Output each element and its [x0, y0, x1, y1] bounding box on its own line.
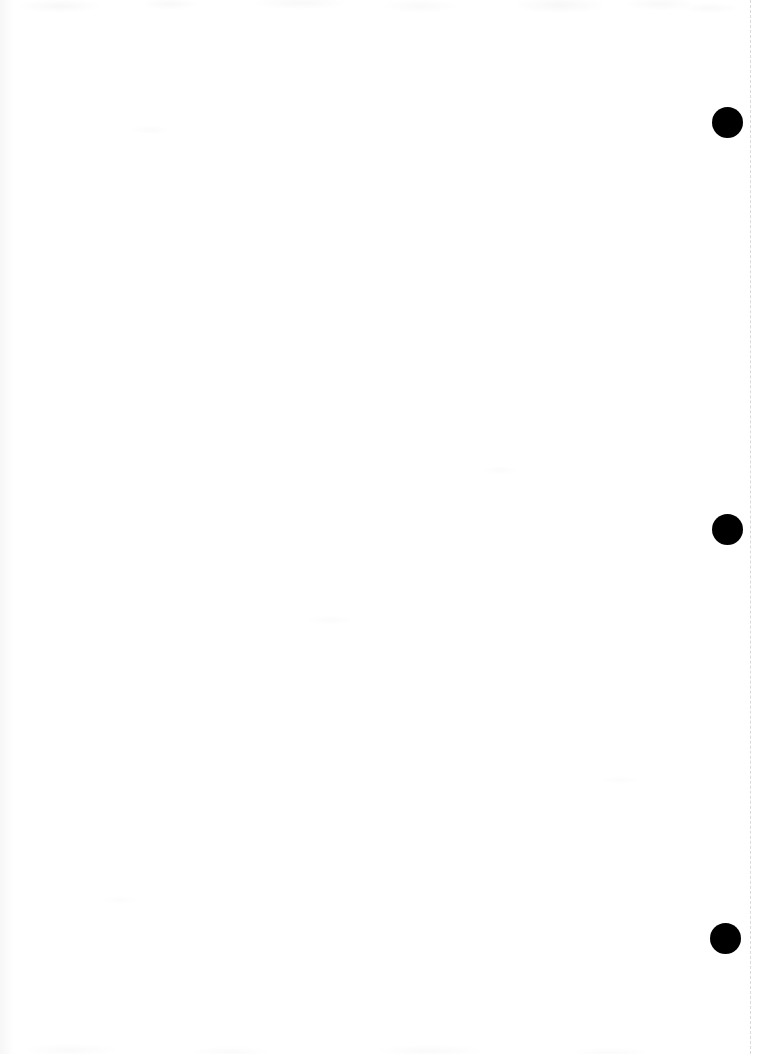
scan-noise-top-edge	[0, 0, 760, 34]
page-body-text	[40, 40, 700, 1000]
vertical-dashed-guide-line	[750, 0, 751, 1054]
registration-dot-middle	[712, 514, 743, 545]
scanned-page	[0, 0, 760, 1054]
scan-noise-bottom-edge	[0, 1024, 760, 1054]
scan-noise-left-edge	[0, 0, 14, 1054]
registration-dot-top	[712, 107, 743, 138]
registration-dot-bottom	[710, 923, 741, 954]
